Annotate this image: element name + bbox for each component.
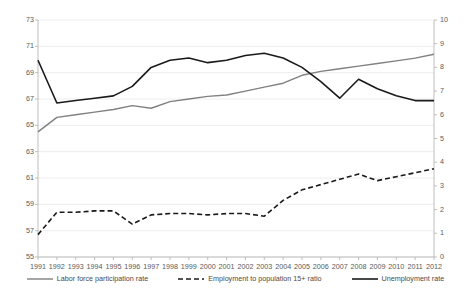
y-axis-right-tick-label: 1 [440, 229, 466, 236]
y-axis-left-tick-label: 67 [8, 95, 34, 102]
y-axis-left-tick-label: 71 [8, 42, 34, 49]
legend-swatch-icon [352, 275, 378, 283]
y-axis-right-tick-label: 8 [440, 63, 466, 70]
y-axis-right-tick-label: 4 [440, 158, 466, 165]
chart-plot-area [0, 0, 471, 297]
y-axis-right-tick-label: 3 [440, 182, 466, 189]
y-axis-right-tick-label: 7 [440, 87, 466, 94]
y-axis-left-tick-label: 61 [8, 174, 34, 181]
chart-legend: Labor force participation rateEmployment… [0, 275, 471, 283]
line-chart: 55575961636567697173 012345678910 199119… [0, 0, 471, 297]
y-axis-left-tick-label: 59 [8, 200, 34, 207]
x-axis-tick-label: 2012 [422, 263, 446, 270]
y-axis-left-tick-label: 57 [8, 227, 34, 234]
y-axis-left-tick-label: 55 [8, 253, 34, 260]
series-line-1 [38, 169, 434, 235]
legend-item[interactable]: Labor force participation rate [27, 275, 149, 283]
y-axis-right-tick-label: 6 [440, 111, 466, 118]
y-axis-left-tick-label: 73 [8, 16, 34, 23]
y-axis-right-tick-label: 2 [440, 206, 466, 213]
legend-swatch-icon [178, 275, 204, 283]
legend-item-label: Unemployment rate [382, 275, 445, 282]
legend-item-label: Employment to population 15+ ratio [208, 275, 321, 282]
y-axis-left-tick-label: 69 [8, 69, 34, 76]
legend-swatch-icon [27, 275, 53, 283]
y-axis-right-tick-label: 9 [440, 40, 466, 47]
y-axis-right-tick-label: 0 [440, 253, 466, 260]
y-axis-left-tick-label: 63 [8, 148, 34, 155]
series-line-2 [38, 53, 434, 103]
y-axis-right-tick-label: 10 [440, 16, 466, 23]
y-axis-left-tick-label: 65 [8, 121, 34, 128]
y-axis-right-tick-label: 5 [440, 135, 466, 142]
legend-item[interactable]: Employment to population 15+ ratio [178, 275, 321, 283]
series-line-0 [38, 54, 434, 132]
legend-item[interactable]: Unemployment rate [352, 275, 445, 283]
legend-item-label: Labor force participation rate [57, 275, 149, 282]
